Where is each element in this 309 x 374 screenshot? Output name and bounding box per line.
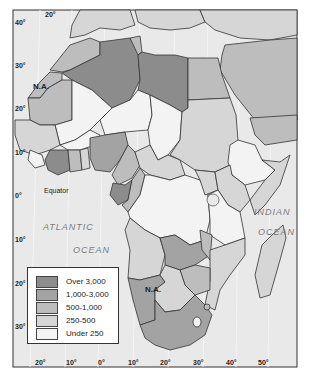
legend-label: Over 3,000 xyxy=(66,277,106,286)
lon-label-50e: 50° xyxy=(258,359,269,366)
lon-label-10e: 10° xyxy=(128,359,139,366)
na-label-western-sahara: N.A. xyxy=(33,82,49,91)
legend-swatch xyxy=(36,302,58,314)
legend-item-under-250: Under 250 xyxy=(36,328,116,341)
atlantic-ocean-label-2: OCEAN xyxy=(73,246,110,255)
lon-label-40e: 40° xyxy=(226,359,237,366)
legend-label: 1,000-3,000 xyxy=(66,290,109,299)
legend-swatch xyxy=(36,276,58,288)
lat-label-30n: 30° xyxy=(15,62,26,69)
legend-item-500-1000: 500-1,000 xyxy=(36,302,116,315)
lat-label-30s: 30° xyxy=(15,323,26,330)
legend-item-1000-3000: 1,000-3,000 xyxy=(36,289,116,302)
lat-label-10n: 10° xyxy=(15,149,26,156)
lon-label-10w: 10° xyxy=(66,359,77,366)
indian-ocean-label-2: OCEAN xyxy=(258,228,295,237)
indian-ocean-label-1: INDIAN xyxy=(254,208,291,217)
atlantic-ocean-label-1: ATLANTIC xyxy=(43,223,94,232)
lat-label-40n: 40° xyxy=(15,19,26,26)
lat-label-0: 0° xyxy=(15,192,22,199)
legend-label: 500-1,000 xyxy=(66,303,102,312)
lon-label-20w: 20° xyxy=(35,359,46,366)
legend-label: Under 250 xyxy=(66,329,103,338)
lon-label-20e: 20° xyxy=(160,359,171,366)
lon-label-top: 20° xyxy=(45,11,56,18)
na-label-namibia: N.A. xyxy=(145,285,161,294)
legend-item-over-3000: Over 3,000 xyxy=(36,276,116,289)
legend-swatch xyxy=(36,328,58,340)
legend-swatch xyxy=(36,315,58,327)
equator-label: Equator xyxy=(44,187,69,194)
legend-label: 250-500 xyxy=(66,316,95,325)
lon-label-30e: 30° xyxy=(193,359,204,366)
lat-label-20n: 20° xyxy=(15,105,26,112)
legend-swatch xyxy=(36,289,58,301)
legend: Over 3,000 1,000-3,000 500-1,000 250-500… xyxy=(27,267,119,344)
lat-label-10s: 10° xyxy=(15,236,26,243)
legend-item-250-500: 250-500 xyxy=(36,315,116,328)
lat-label-20s: 20° xyxy=(15,280,26,287)
lon-label-0: 0° xyxy=(98,359,105,366)
